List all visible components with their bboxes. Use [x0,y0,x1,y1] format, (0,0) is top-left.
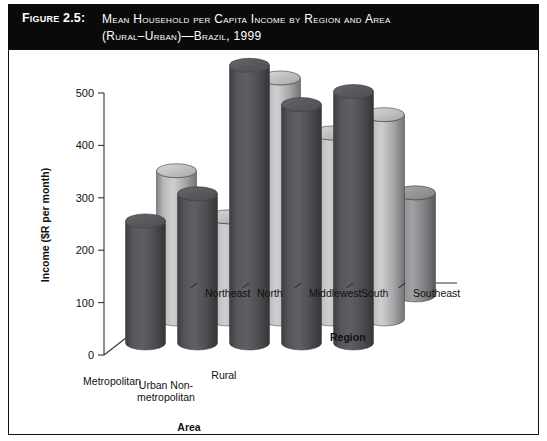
region-axis-tick-label: South [361,287,389,299]
bar-cylinder [230,58,270,350]
area-axis-tick-label: Rural [211,369,236,381]
y-axis-tick-label: 300 [76,192,94,204]
bar-cylinder [178,187,218,350]
y-axis-tick-label: 400 [76,139,94,151]
y-axis-tick-label: 100 [76,297,94,309]
area-axis-tick-label: Urban Non- [139,379,194,391]
figure-title-line2: (Rural–Urban)—Brazil, 1999 [102,29,261,43]
bar-cylinder [282,98,322,350]
figure-title-line1: Mean Household per Capita Income by Regi… [102,12,391,26]
bar-chart-3d: 0100200300400500Income ($R per month)Met… [9,50,540,435]
figure-title-banner: Figure 2.5: Mean Household per Capita In… [8,4,539,50]
area-axis-tick-label: Metropolitan [83,375,141,387]
bar-cylinder [334,84,374,350]
figure-page: Figure 2.5: Mean Household per Capita In… [0,0,547,441]
region-axis-tick-label: Middlewest [309,287,362,299]
bar-cylinder [126,214,166,350]
chart-canvas: 0100200300400500Income ($R per month)Met… [9,50,540,435]
area-axis-tick-label: metropolitan [137,391,195,403]
area-axis-title: Area [177,421,201,433]
region-axis-tick-label: North [257,287,283,299]
region-axis-tick-label: Southeast [413,287,460,299]
y-axis-tick-label: 0 [88,349,94,361]
y-axis-tick-label: 200 [76,244,94,256]
y-axis-title: Income ($R per month) [39,168,51,282]
region-axis-title: Region [330,331,366,343]
y-axis-tick-label: 500 [76,87,94,99]
figure-number-label: Figure 2.5: [22,11,85,25]
region-axis-tick-label: Northeast [205,287,251,299]
figure-body-frame: 0100200300400500Income ($R per month)Met… [8,50,539,435]
